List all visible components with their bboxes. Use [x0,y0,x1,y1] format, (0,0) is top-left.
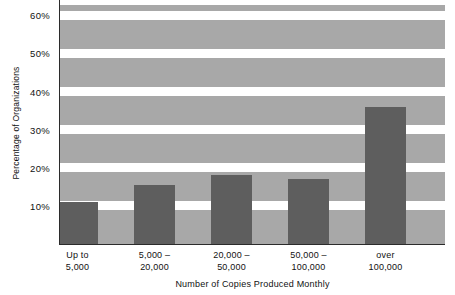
x-tick-label-line: Up to [66,250,90,262]
grid-band [60,20,445,49]
x-axis-tick-labels: Up to5,0005,000 –20,00020,000 –50,00050,… [60,250,445,280]
y-axis-tick-labels: 10%20%30%40%50%60% [0,0,56,295]
x-tick-label: Up to5,000 [66,250,90,273]
bar [288,179,329,244]
bar-chart-figure: Percentage of Organizations 10%20%30%40%… [0,0,455,295]
bar [211,175,252,244]
x-axis-line [59,244,445,245]
grid-band [60,5,445,11]
bar [134,185,175,244]
x-tick-label: 50,000 –100,000 [290,250,327,273]
plot-area [60,0,445,244]
x-axis-title: Number of Copies Produced Monthly [60,279,445,289]
x-tick-label: 20,000 –50,000 [213,250,250,273]
x-tick-label: over100,000 [369,250,403,273]
x-tick-label-line: 20,000 [139,262,170,274]
y-tick-label: 10% [30,200,50,211]
grid-band [60,58,445,87]
x-tick-label-line: 50,000 – [290,250,327,262]
y-tick-label: 60% [30,10,50,21]
x-tick-label-line: 20,000 – [213,250,250,262]
x-tick-label-line: 100,000 [290,262,327,274]
y-tick-label: 50% [30,48,50,59]
bar [365,107,406,244]
x-tick-label-line: 5,000 [66,262,90,274]
y-tick-label: 30% [30,124,50,135]
x-tick-label: 5,000 –20,000 [139,250,170,273]
x-tick-label-line: 100,000 [369,262,403,274]
x-tick-label-line: over [369,250,403,262]
bar [60,202,98,244]
x-tick-label-line: 5,000 – [139,250,170,262]
y-axis-line [59,0,60,245]
y-tick-label: 20% [30,162,50,173]
y-tick-label: 40% [30,86,50,97]
x-tick-label-line: 50,000 [213,262,250,274]
